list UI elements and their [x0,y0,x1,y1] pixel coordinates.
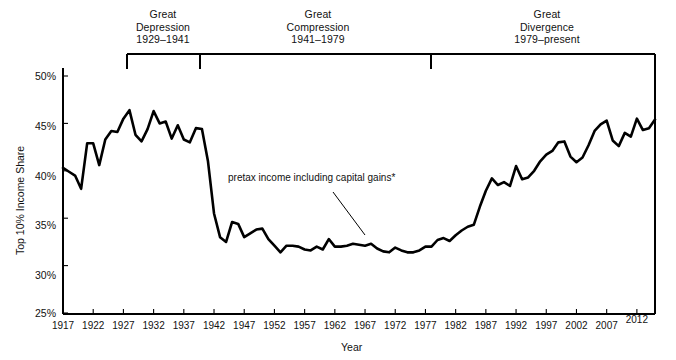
x-tick-label: 1997 [530,320,562,331]
annotation-leader-line [333,192,365,235]
x-tick-label: 1952 [258,320,290,331]
x-tick-marks [63,309,637,314]
x-tick-label: 1982 [440,320,472,331]
income-share-chart-figure: Great Depression 1929–1941 Great Compres… [0,0,676,360]
x-tick-label: 1967 [349,320,381,331]
x-tick-label: 2007 [591,320,623,331]
x-tick-label: 1962 [319,320,351,331]
x-tick-label: 1947 [228,320,260,331]
x-tick-label: 1922 [77,320,109,331]
x-tick-label: 1932 [138,320,170,331]
series-annotation-label: pretax income including capital gains* [228,172,395,183]
x-tick-label: 1927 [107,320,139,331]
x-axis-title: Year [341,341,362,353]
y-tick-marks [63,76,68,313]
x-tick-label: 1987 [470,320,502,331]
x-tick-label: 1972 [379,320,411,331]
x-tick-label: 1977 [409,320,441,331]
x-tick-label: 2002 [560,320,592,331]
x-tick-label: 1942 [198,320,230,331]
x-tick-label: 1992 [500,320,532,331]
x-tick-label: 1937 [168,320,200,331]
x-tick-label: 1957 [289,320,321,331]
x-tick-label: 1917 [47,320,79,331]
x-tick-label: 2012 [621,314,653,325]
